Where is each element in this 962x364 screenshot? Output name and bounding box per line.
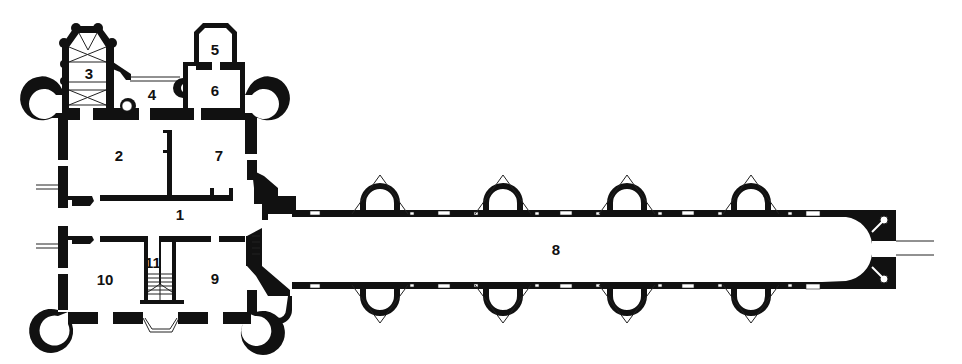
room-label-7: 7 bbox=[215, 148, 223, 163]
room-label-6: 6 bbox=[211, 83, 219, 98]
room-label-11: 11 bbox=[145, 255, 161, 270]
room-label-3: 3 bbox=[85, 66, 93, 81]
tower-5-6 bbox=[173, 23, 245, 112]
room-label-1: 1 bbox=[176, 207, 184, 222]
gallery bbox=[292, 175, 934, 323]
room-label-9: 9 bbox=[211, 271, 219, 286]
room-label-2: 2 bbox=[115, 148, 123, 163]
room-label-10: 10 bbox=[97, 272, 114, 287]
room-label-8: 8 bbox=[552, 242, 560, 257]
room-label-5: 5 bbox=[211, 42, 219, 57]
main-block bbox=[20, 76, 296, 355]
chapel-tower bbox=[59, 23, 180, 118]
floor-plan bbox=[0, 0, 962, 364]
room-label-4: 4 bbox=[148, 87, 156, 102]
